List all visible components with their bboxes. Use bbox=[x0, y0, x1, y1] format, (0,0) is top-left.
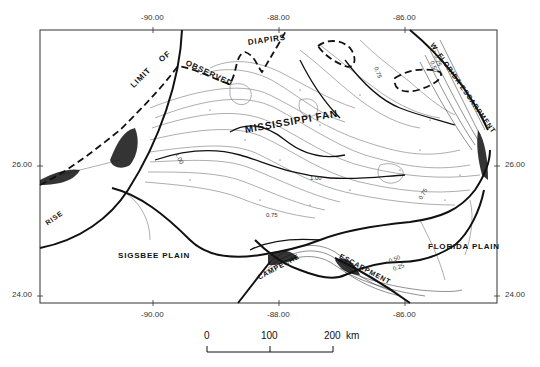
lat-tick-right-26: 26.00 bbox=[505, 160, 525, 169]
lon-tick-bottom-88: -88.00 bbox=[267, 310, 290, 319]
escarpment-shading bbox=[40, 128, 488, 275]
lat-tick-right-24: 24.00 bbox=[505, 290, 525, 299]
diapir-limit-dashed bbox=[40, 30, 441, 185]
label-florida-plain: FLORIDA PLAIN bbox=[428, 242, 500, 251]
sample-points bbox=[189, 89, 460, 205]
scale-label-0: 0 bbox=[204, 330, 210, 341]
lon-tick-bottom-90: -90.00 bbox=[141, 310, 164, 319]
physiographic-boundaries bbox=[40, 30, 490, 303]
lat-tick-left-26: 26.00 bbox=[12, 160, 32, 169]
contour-label-1-00-center: 1.00 bbox=[310, 175, 322, 181]
lon-tick-top-86: -86.00 bbox=[393, 13, 416, 22]
lat-tick-left-24: 24.00 bbox=[12, 290, 32, 299]
scale-label-200: 200 bbox=[324, 330, 341, 341]
scale-label-100: 100 bbox=[261, 330, 278, 341]
scale-unit: km bbox=[346, 330, 359, 341]
label-sigsbee-plain: SIGSBEE PLAIN bbox=[118, 251, 190, 260]
lon-tick-top-88: -88.00 bbox=[267, 13, 290, 22]
contour-label-0-75-south: 0.75 bbox=[266, 212, 278, 218]
lon-tick-top-90: -90.00 bbox=[141, 13, 164, 22]
scale-bar bbox=[207, 346, 333, 352]
lon-tick-bottom-86: -86.00 bbox=[393, 310, 416, 319]
